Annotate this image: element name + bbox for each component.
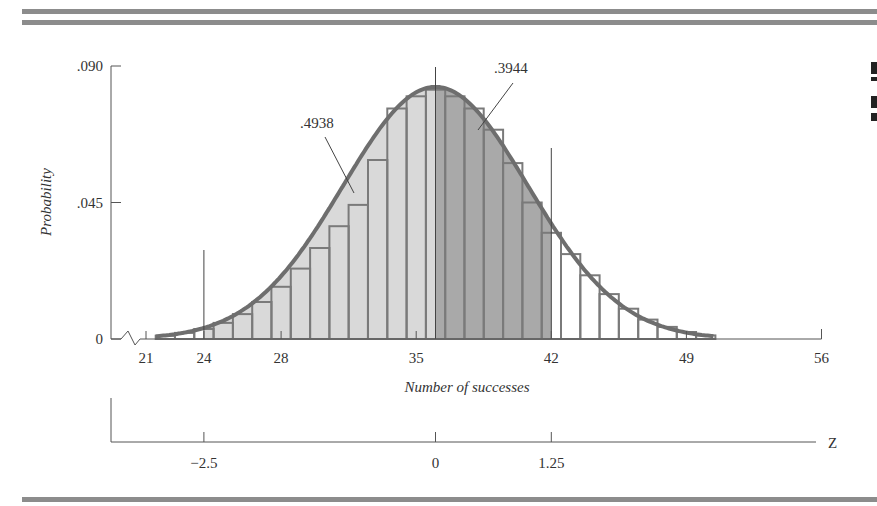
z-tick-label: 0 [432, 455, 440, 471]
x-tick-label: 24 [196, 350, 212, 366]
left-area-label: .4938 [300, 115, 334, 131]
x-tick-label: 21 [139, 350, 154, 366]
histogram-bar [561, 254, 580, 339]
y-tick-label: .090 [77, 58, 103, 74]
z-ticks: −2.501.25 [190, 432, 564, 471]
x-tick-label: 56 [814, 350, 830, 366]
x-tick-label: 42 [544, 350, 559, 366]
x-tick-label: 49 [679, 350, 694, 366]
z-tick-label: 1.25 [538, 455, 564, 471]
z-tick-label: −2.5 [190, 455, 217, 471]
shaded-region-dark [436, 87, 552, 339]
x-tick-label: 28 [274, 350, 289, 366]
y-tick-label: .045 [77, 195, 103, 211]
y-ticks: 0.045.090 [77, 58, 121, 347]
left-area-leader [325, 137, 354, 193]
binomial-chart: 0.045.090 Probability 21242835424956 Num… [0, 0, 877, 506]
y-tick-label: 0 [96, 331, 104, 347]
x-tick-label: 35 [409, 350, 424, 366]
right-area-label: .3944 [494, 60, 528, 76]
x-axis-title: Number of successes [404, 379, 530, 395]
z-axis-title: Z [828, 435, 837, 451]
right-area-leader [478, 83, 513, 130]
y-axis-title: Probability [38, 168, 54, 237]
